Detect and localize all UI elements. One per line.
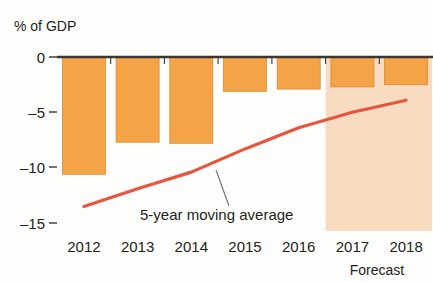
x-tick-label-2017: 2017 (336, 238, 369, 255)
y-axis-title: % of GDP (14, 18, 76, 34)
y-tick-label-minus15: –15 (20, 215, 45, 232)
bar-2017 (331, 57, 374, 87)
x-tick-label-2015: 2015 (228, 238, 261, 255)
bar-2016 (277, 57, 320, 89)
bar-2018 (385, 57, 428, 85)
chart-canvas: % of GDP 0 –5 –10 –15 5-year moving aver… (0, 0, 433, 282)
x-tick-label-2012: 2012 (67, 238, 100, 255)
chart-figure: % of GDP 0 –5 –10 –15 5-year moving aver… (0, 0, 433, 282)
y-tick-label-0: 0 (37, 49, 45, 66)
y-tick-label-minus10: –10 (20, 159, 45, 176)
bar-2013 (116, 57, 159, 142)
bar-2012 (62, 57, 105, 174)
x-tick-label-2014: 2014 (175, 238, 208, 255)
bar-2014 (170, 57, 213, 143)
x-tick-label-2016: 2016 (282, 238, 315, 255)
bar-2015 (224, 57, 267, 91)
x-tick-label-2018: 2018 (389, 238, 422, 255)
x-tick-label-2013: 2013 (121, 238, 154, 255)
moving-average-annotation: 5-year moving average (140, 206, 293, 223)
y-tick-label-minus5: –5 (28, 104, 45, 121)
forecast-label: Forecast (350, 262, 405, 278)
